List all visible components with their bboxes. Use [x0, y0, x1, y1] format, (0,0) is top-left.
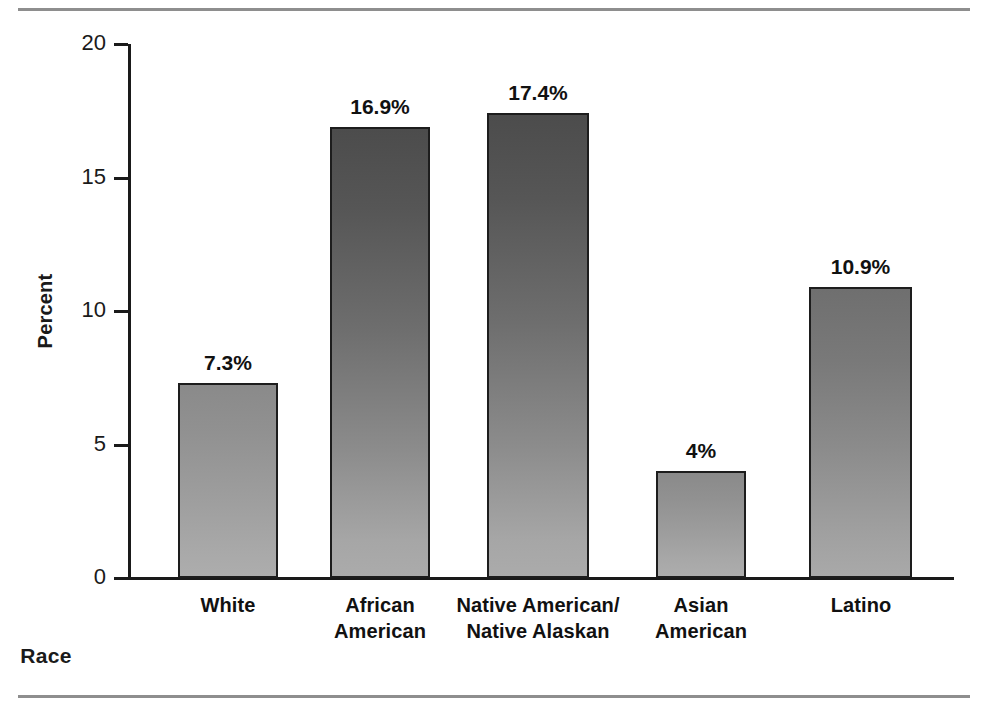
bar-chart-plot: 05101520 Percent Race 7.3%16.9%17.4%4%10…	[0, 0, 988, 716]
x-axis-category-label: Latino	[781, 592, 941, 618]
x-axis-title: Race	[0, 644, 988, 668]
y-axis-line	[128, 44, 131, 580]
figure-container: 05101520 Percent Race 7.3%16.9%17.4%4%10…	[0, 0, 988, 716]
y-axis-tick	[114, 43, 128, 46]
y-axis-tick-label: 15	[34, 166, 106, 188]
x-axis-category-label-line: American	[621, 618, 781, 644]
y-axis-tick-label: 20	[34, 32, 106, 54]
y-axis-tick-label: 0	[34, 566, 106, 588]
bar-value-label: 4%	[616, 440, 786, 461]
bar	[178, 383, 278, 578]
x-axis-category-label: AfricanAmerican	[300, 592, 460, 645]
x-axis-category-label-line: Native Alaskan	[440, 618, 636, 644]
y-axis-tick	[114, 444, 128, 447]
bar	[487, 113, 589, 578]
y-axis-tick-label-text: 5	[40, 433, 106, 455]
y-axis-tick-label-text: 20	[40, 32, 106, 54]
bar-value-label: 16.9%	[290, 96, 470, 117]
x-axis-category-label-line: Latino	[781, 592, 941, 618]
bar-value-label: 17.4%	[447, 82, 629, 103]
y-axis-tick	[114, 577, 128, 580]
bar	[656, 471, 746, 578]
x-axis-category-label-line: African	[300, 592, 460, 618]
x-axis-category-label: Native American/Native Alaskan	[440, 592, 636, 645]
x-axis-title-text: Race	[20, 644, 71, 668]
y-axis-tick-label-text: 0	[40, 566, 106, 588]
bar-value-label: 7.3%	[138, 352, 318, 373]
x-axis-category-label-line: Asian	[621, 592, 781, 618]
bar	[809, 287, 912, 578]
x-axis-category-label: AsianAmerican	[621, 592, 781, 645]
x-axis-category-label-line: Native American/	[440, 592, 636, 618]
bar	[330, 127, 430, 578]
y-axis-tick	[114, 177, 128, 180]
y-axis-tick-label-text: 15	[40, 166, 106, 188]
y-axis-tick-label: 5	[34, 433, 106, 455]
y-axis-title: Percent	[30, 251, 60, 371]
x-axis-category-label-line: White	[148, 592, 308, 618]
x-axis-category-label-line: American	[300, 618, 460, 644]
x-axis-category-label: White	[148, 592, 308, 618]
bar-value-label: 10.9%	[769, 256, 952, 277]
y-axis-tick	[114, 310, 128, 313]
